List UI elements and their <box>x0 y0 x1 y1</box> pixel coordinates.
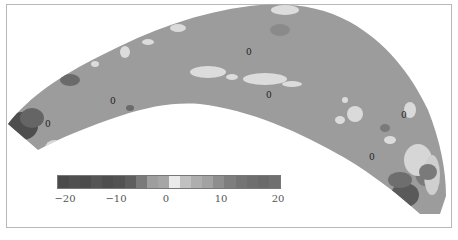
contour-label: 0 <box>401 110 407 120</box>
contour-label: 0 <box>369 152 375 162</box>
contour-label: 0 <box>266 90 272 100</box>
tick-label: −10 <box>105 193 126 204</box>
colorbar-segment <box>236 176 247 188</box>
colorbar-segment <box>224 176 235 188</box>
colorbar-segment <box>147 176 158 188</box>
contour-label: 0 <box>45 119 51 129</box>
colorbar-segment <box>69 176 80 188</box>
colorbar-segment <box>247 176 258 188</box>
colorbar-segment <box>180 176 191 188</box>
colorbar-segment <box>169 176 180 188</box>
tick-label: −20 <box>54 193 75 204</box>
colorbar-segment <box>125 176 136 188</box>
contour-label: 0 <box>246 47 252 57</box>
contour-label: 0 <box>110 96 116 106</box>
tick-label: 20 <box>272 193 285 204</box>
colorbar-segment <box>269 176 280 188</box>
colorbar-segment <box>102 176 113 188</box>
colorbar-segment <box>158 176 169 188</box>
tick-label: 10 <box>215 193 228 204</box>
colorbar-segment <box>113 176 124 188</box>
colorbar-legend <box>57 175 281 189</box>
colorbar-segment <box>91 176 102 188</box>
colorbar-ticks: −20 −10 0 10 20 <box>40 193 300 207</box>
colorbar-segment <box>58 176 69 188</box>
colorbar-segment <box>258 176 269 188</box>
colorbar-segment <box>202 176 213 188</box>
colorbar-segment <box>213 176 224 188</box>
colorbar-segment <box>191 176 202 188</box>
colorbar-segment <box>80 176 91 188</box>
colorbar-segment <box>136 176 147 188</box>
tick-label: 0 <box>163 193 169 204</box>
